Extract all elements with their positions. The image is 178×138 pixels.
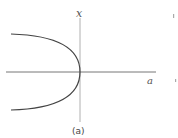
x-axis-label: a [147,75,153,86]
figure-caption: (a) [72,126,85,136]
bifurcation-diagram: x a (a) [0,0,178,138]
edge-mark [173,14,174,18]
y-axis-label: x [76,7,83,20]
edge-mark [175,79,176,82]
